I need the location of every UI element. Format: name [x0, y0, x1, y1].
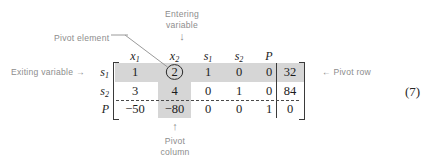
- cell-r2-rhs: 0: [278, 102, 302, 117]
- cell-r0-c3: 0: [225, 65, 253, 80]
- column-header-p: P: [256, 49, 282, 64]
- objective-row-separator: [116, 100, 299, 101]
- column-header-s1: s1: [194, 49, 222, 64]
- pivot-column-arrow-icon: ↑: [145, 121, 205, 132]
- cell-r2-c3: 0: [225, 102, 253, 117]
- cell-r1-c2: 0: [194, 84, 222, 99]
- cell-r1-c1: 4: [158, 84, 191, 99]
- exiting-variable-label: Exiting variable →: [11, 67, 85, 78]
- row-label-s1: s1: [93, 65, 109, 80]
- cell-r0-rhs: 32: [278, 65, 302, 80]
- cell-r2-c1: −80: [158, 102, 191, 117]
- column-header-x2: x2: [158, 49, 191, 64]
- cell-r2-c0: −50: [119, 102, 151, 117]
- cell-r0-c2: 1: [194, 65, 222, 80]
- cell-r0-c0: 1: [119, 65, 151, 80]
- entering-variable-label: Entering variable: [148, 9, 216, 31]
- simplex-tableau-figure: x1 x2 s1 s2 P s1 s2 P 1 2 1 0 0 32 3 4 0…: [0, 0, 441, 168]
- pivot-column-label: Pivot column: [145, 136, 205, 158]
- entering-variable-arrow-icon: ↓: [148, 31, 216, 42]
- pivot-row-label: ← Pivot row: [322, 67, 371, 78]
- cell-r2-c2: 0: [194, 102, 222, 117]
- cell-r1-c3: 1: [225, 84, 253, 99]
- row-label-p: P: [93, 102, 109, 117]
- cell-r1-c0: 3: [119, 84, 151, 99]
- row-label-s2: s2: [93, 84, 109, 99]
- pivot-element-label: Pivot element: [54, 33, 109, 44]
- pivot-element-value: 2: [158, 65, 191, 80]
- equation-number: (7): [405, 84, 420, 100]
- cell-r1-rhs: 84: [278, 84, 302, 99]
- column-header-x1: x1: [119, 49, 151, 64]
- column-header-s2: s2: [225, 49, 253, 64]
